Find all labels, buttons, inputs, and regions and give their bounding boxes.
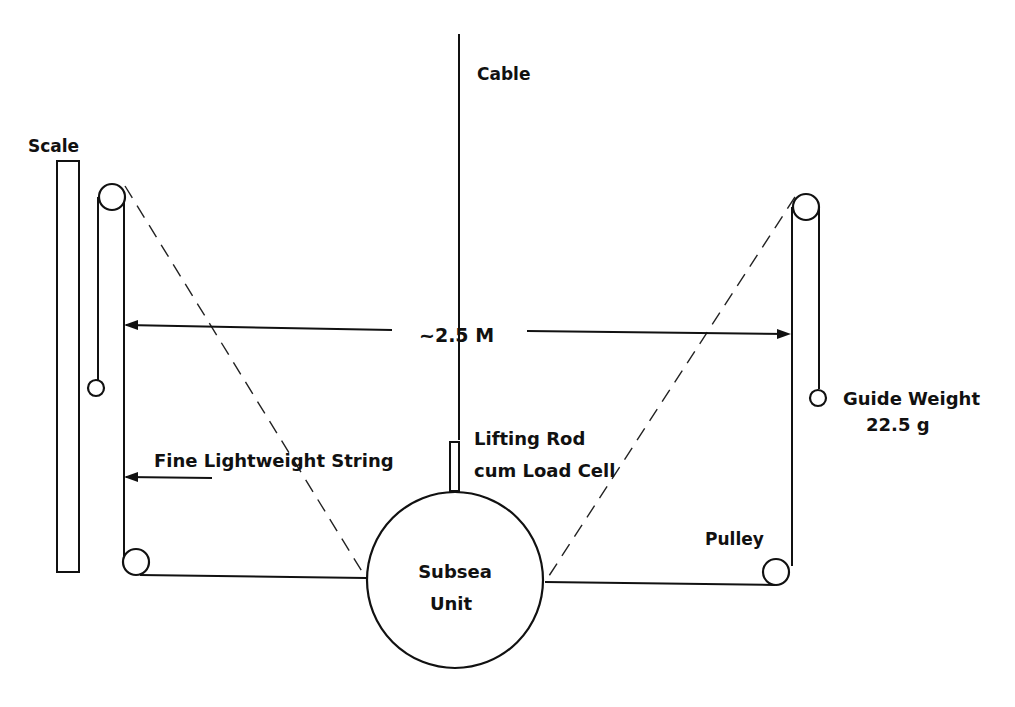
- string-arrow-line: [126, 477, 212, 478]
- lifting-rod: [450, 442, 459, 491]
- pulley-label: Pulley: [705, 529, 764, 549]
- distance-arrow-right-line: [527, 331, 788, 334]
- subsea-unit-diagram: Cable Scale ~2.5 M Guide Weight 22.5 g F…: [0, 0, 1015, 707]
- right-guide-weight: [810, 390, 826, 406]
- top-left-pulley: [99, 184, 125, 210]
- guide-weight-value: 22.5 g: [866, 414, 930, 435]
- subsea-unit-label-line2: Unit: [430, 593, 473, 614]
- distance-arrow-left-line: [126, 325, 392, 330]
- distance-arrow-left-head: [124, 320, 138, 330]
- left-horizontal-string: [140, 575, 366, 578]
- right-horizontal-string: [545, 582, 775, 585]
- right-dashed-diagonal: [545, 197, 795, 582]
- scale-label: Scale: [28, 136, 79, 156]
- top-right-pulley: [793, 194, 819, 220]
- lifting-rod-label-line1: Lifting Rod: [474, 428, 585, 449]
- guide-weight-label: Guide Weight: [843, 388, 980, 409]
- bottom-left-pulley: [123, 549, 149, 575]
- scale-bar: [57, 161, 79, 572]
- guide-weight-name: Guide Weight: [843, 388, 980, 409]
- bottom-right-pulley: [763, 559, 789, 585]
- cable-label: Cable: [477, 64, 530, 84]
- lifting-rod-label-line2: cum Load Cell: [474, 460, 615, 481]
- distance-label: ~2.5 M: [419, 324, 494, 346]
- left-dashed-diagonal: [125, 186, 366, 578]
- string-label: Fine Lightweight String: [154, 450, 394, 471]
- left-guide-weight: [88, 380, 104, 396]
- string-arrow-head: [124, 472, 138, 482]
- distance-arrow-right-head: [777, 329, 791, 339]
- subsea-unit-label-line1: Subsea: [418, 561, 492, 582]
